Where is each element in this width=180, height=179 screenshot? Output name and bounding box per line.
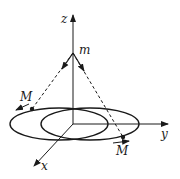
mass-right-dot	[121, 135, 125, 139]
mass-left-label: M	[20, 91, 32, 103]
velocity-arrow-left	[16, 104, 29, 110]
velocity-arrow-right	[113, 141, 129, 143]
z-axis-label: z	[61, 13, 67, 25]
y-axis-label: y	[161, 128, 168, 140]
apex-label: m	[79, 44, 90, 56]
force-arrow-left	[62, 53, 73, 69]
mass-right-label: M	[116, 145, 128, 157]
x-axis	[34, 124, 73, 166]
mass-left-dot	[30, 107, 34, 111]
x-axis-label: x	[41, 160, 48, 172]
